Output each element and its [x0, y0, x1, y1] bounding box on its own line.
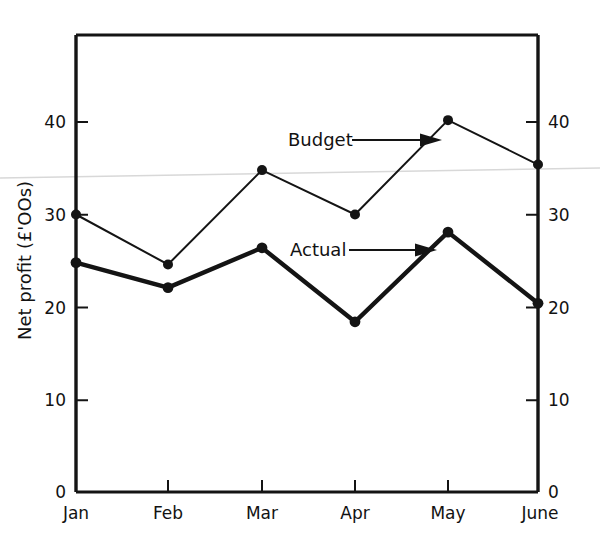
data-point	[71, 257, 82, 268]
y-axis-label-30: 30	[44, 205, 66, 225]
data-point	[163, 259, 173, 269]
data-point	[71, 210, 81, 220]
data-point	[533, 298, 544, 309]
data-point	[350, 316, 361, 327]
actual-annotation-label: Actual	[290, 239, 346, 260]
y-axis-label-20: 20	[44, 298, 66, 318]
x-axis-label-june: June	[520, 503, 558, 523]
data-point	[163, 282, 174, 293]
data-point	[443, 227, 454, 238]
y-right-axis-label-10: 10	[548, 390, 570, 410]
line-chart: 40 30 20 10 0 40 30 20 10 0 Jan Feb Mar …	[0, 0, 600, 545]
x-axis-label-jan: Jan	[62, 503, 89, 523]
budget-annotation-label: Budget	[288, 129, 353, 150]
y-right-axis-label-30: 30	[548, 205, 570, 225]
x-axis-label-mar: Mar	[246, 503, 278, 523]
y-right-axis-label-20: 20	[548, 298, 570, 318]
data-point	[257, 165, 267, 175]
x-axis-label-feb: Feb	[153, 503, 183, 523]
y-axis-label-10: 10	[44, 390, 66, 410]
chart-background	[0, 0, 600, 545]
data-point	[350, 210, 360, 220]
y-right-axis-label-0: 0	[548, 482, 559, 502]
y-axis-label-40: 40	[44, 112, 66, 132]
data-point	[533, 160, 543, 170]
chart-figure: 40 30 20 10 0 40 30 20 10 0 Jan Feb Mar …	[0, 0, 600, 545]
y-right-axis-label-40: 40	[548, 112, 570, 132]
y-axis-title: Net profit (£'OOs)	[14, 181, 35, 340]
data-point	[443, 115, 453, 125]
data-point	[257, 242, 268, 253]
x-axis-label-may: May	[430, 503, 465, 523]
x-axis-label-apr: Apr	[340, 503, 369, 523]
y-axis-label-0: 0	[55, 482, 66, 502]
